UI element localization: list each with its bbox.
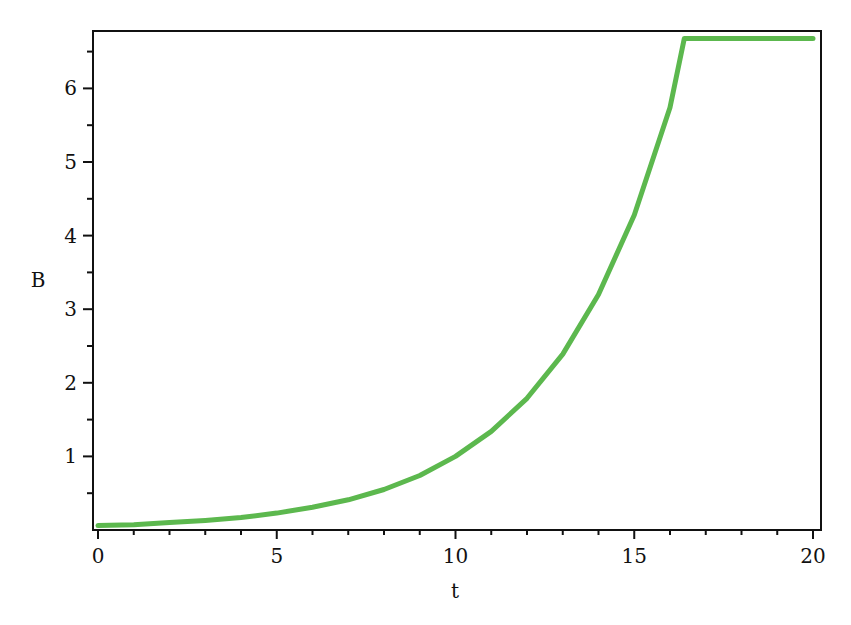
y-tick-label: 1 — [64, 444, 77, 468]
y-tick-label: 3 — [64, 297, 77, 321]
x-tick-label: 5 — [270, 544, 283, 568]
y-axis-ticks: 123456 — [64, 52, 93, 494]
x-tick-label: 10 — [443, 544, 468, 568]
y-tick-label: 5 — [64, 150, 77, 174]
chart-canvas: 05101520 123456 t B — [0, 0, 851, 625]
series-line — [98, 38, 813, 525]
x-axis-label: t — [451, 579, 459, 603]
y-tick-label: 2 — [64, 371, 77, 395]
y-tick-label: 4 — [64, 224, 77, 248]
data-series-b — [98, 38, 813, 525]
x-axis-ticks: 05101520 — [92, 530, 826, 568]
y-tick-label: 6 — [64, 76, 77, 100]
y-axis-label: B — [31, 268, 46, 292]
x-tick-label: 15 — [622, 544, 647, 568]
x-tick-label: 0 — [92, 544, 105, 568]
x-tick-label: 20 — [800, 544, 825, 568]
